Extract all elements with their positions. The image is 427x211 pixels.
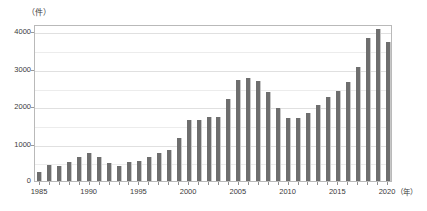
bar: [246, 78, 251, 181]
x-axis-unit-label: （年）: [396, 188, 417, 197]
bar: [236, 80, 241, 181]
x-tick-mark: [109, 182, 110, 185]
x-tick-mark: [288, 182, 289, 185]
bar: [376, 29, 381, 182]
bar: [167, 150, 172, 181]
x-tick-mark: [119, 182, 120, 185]
x-tick-mark: [198, 182, 199, 185]
x-tick-label: 1995: [130, 187, 147, 196]
bar: [336, 91, 341, 181]
x-tick-label: 1985: [31, 187, 48, 196]
x-tick-mark: [148, 182, 149, 185]
bar: [127, 162, 132, 181]
bar: [286, 118, 291, 181]
x-tick-mark: [278, 182, 279, 185]
bar: [276, 108, 281, 181]
x-tick-mark: [337, 182, 338, 185]
x-tick-mark: [69, 182, 70, 185]
bar: [296, 118, 301, 181]
x-tick-label: 2000: [180, 187, 197, 196]
bar: [256, 81, 261, 181]
bar: [306, 113, 311, 181]
bar: [386, 42, 391, 181]
x-tick-mark: [188, 182, 189, 185]
x-tick-label: 2015: [329, 187, 346, 196]
x-tick-label: 1990: [80, 187, 97, 196]
x-tick-mark: [357, 182, 358, 185]
x-tick-mark: [387, 182, 388, 185]
bar: [266, 92, 271, 181]
bar: [77, 157, 82, 181]
x-tick-label: 2020: [379, 187, 396, 196]
x-tick-mark: [49, 182, 50, 185]
bar-chart-figure: （件） 1000200030004000 0 19851990199520002…: [0, 0, 427, 211]
x-tick-mark: [367, 182, 368, 185]
x-tick-mark: [238, 182, 239, 185]
x-tick-mark: [158, 182, 159, 185]
x-tick-label: 2005: [230, 187, 247, 196]
bar: [57, 166, 62, 181]
x-axis-tick-labels: 19851990199520002005201020152020: [34, 187, 392, 199]
x-tick-mark: [208, 182, 209, 185]
x-tick-mark: [168, 182, 169, 185]
bar: [157, 153, 162, 181]
bar: [177, 138, 182, 181]
bar: [97, 157, 102, 181]
x-tick-mark: [59, 182, 60, 185]
bar: [346, 82, 351, 181]
x-tick-mark: [258, 182, 259, 185]
x-tick-mark: [268, 182, 269, 185]
y-axis-tick-marks: [0, 25, 34, 182]
x-tick-mark: [347, 182, 348, 185]
bar: [216, 117, 221, 181]
x-tick-mark: [218, 182, 219, 185]
bar: [226, 99, 231, 181]
bar: [147, 157, 152, 181]
bar: [107, 163, 112, 181]
x-tick-mark: [79, 182, 80, 185]
x-tick-mark: [248, 182, 249, 185]
bar: [197, 120, 202, 181]
x-tick-mark: [377, 182, 378, 185]
bar: [187, 120, 192, 181]
bar: [326, 97, 331, 181]
bar: [316, 105, 321, 181]
plot-area: [34, 25, 392, 182]
x-tick-mark: [39, 182, 40, 185]
y-axis-zero-label: 0: [22, 177, 31, 185]
x-axis-tick-marks: [34, 182, 392, 186]
bar: [207, 117, 212, 181]
x-tick-mark: [228, 182, 229, 185]
x-tick-mark: [138, 182, 139, 185]
bar: [366, 38, 371, 181]
x-tick-mark: [99, 182, 100, 185]
bars-container: [35, 26, 391, 181]
x-tick-mark: [307, 182, 308, 185]
x-tick-mark: [178, 182, 179, 185]
bar: [117, 166, 122, 181]
bar: [37, 172, 42, 181]
x-tick-mark: [298, 182, 299, 185]
bar: [47, 165, 52, 181]
x-tick-label: 2010: [279, 187, 296, 196]
x-tick-mark: [89, 182, 90, 185]
bar: [87, 153, 92, 181]
y-axis-unit-label: （件）: [27, 8, 51, 18]
bar: [67, 162, 72, 181]
x-tick-mark: [128, 182, 129, 185]
x-tick-mark: [327, 182, 328, 185]
bar: [137, 161, 142, 181]
bar: [356, 67, 361, 181]
x-tick-mark: [317, 182, 318, 185]
